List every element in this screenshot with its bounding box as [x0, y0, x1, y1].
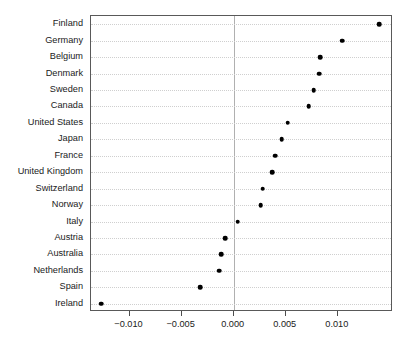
x-tick-mark — [337, 311, 338, 316]
category-label: Spain — [60, 281, 84, 291]
category-label: Ireland — [55, 298, 83, 308]
data-point — [261, 186, 266, 191]
data-point — [312, 88, 317, 93]
category-label: France — [54, 150, 83, 160]
category-label: Switzerland — [36, 183, 84, 193]
x-tick-mark — [285, 311, 286, 316]
x-tick-mark — [181, 311, 182, 316]
x-tick-mark — [233, 311, 234, 316]
data-point — [270, 170, 275, 175]
gridline — [91, 205, 391, 206]
category-label: Finland — [53, 18, 83, 28]
data-point — [377, 22, 382, 27]
x-axis: −0.010−0.0050.0000.0050.010 — [90, 311, 392, 352]
category-label: Netherlands — [33, 265, 83, 275]
data-point — [318, 55, 323, 60]
data-point — [99, 301, 104, 306]
gridline — [91, 106, 391, 107]
x-tick-mark — [129, 311, 130, 316]
dot-plot-figure: FinlandGermanyBelgiumDenmarkSwedenCanada… — [0, 0, 403, 352]
gridline — [91, 24, 391, 25]
category-label: Canada — [51, 100, 83, 110]
x-tick-label: −0.005 — [166, 319, 194, 330]
data-point — [198, 285, 203, 290]
data-point — [236, 219, 241, 224]
gridline — [91, 90, 391, 91]
category-axis: FinlandGermanyBelgiumDenmarkSwedenCanada… — [0, 0, 86, 352]
x-tick-label: −0.010 — [114, 319, 142, 330]
data-point — [306, 104, 311, 109]
gridline — [91, 74, 391, 75]
category-label: Germany — [45, 35, 83, 45]
data-point — [223, 236, 228, 241]
gridline — [91, 189, 391, 190]
gridline — [91, 41, 391, 42]
category-label: Norway — [52, 199, 83, 209]
gridline — [91, 123, 391, 124]
gridline — [91, 238, 391, 239]
x-tick-label: 0.005 — [273, 319, 296, 330]
gridline — [91, 254, 391, 255]
x-tick-label: 0.010 — [325, 319, 348, 330]
data-point — [317, 71, 322, 76]
zero-reference-line — [234, 16, 235, 310]
gridline — [91, 222, 391, 223]
data-point — [217, 269, 222, 274]
category-label: Japan — [58, 133, 83, 143]
data-point — [340, 38, 345, 43]
gridline — [91, 287, 391, 288]
category-label: Austria — [54, 232, 83, 242]
data-point — [286, 121, 291, 126]
category-label: Italy — [66, 216, 83, 226]
data-point — [279, 137, 284, 142]
category-label: Belgium — [50, 51, 83, 61]
category-label: United States — [28, 117, 83, 127]
category-label: Denmark — [46, 68, 83, 78]
x-tick-label: 0.000 — [221, 319, 244, 330]
gridline — [91, 156, 391, 157]
category-label: United Kingdom — [18, 166, 83, 176]
category-label: Sweden — [50, 84, 83, 94]
data-point — [219, 252, 224, 257]
gridline — [91, 139, 391, 140]
gridline — [91, 304, 391, 305]
gridline — [91, 57, 391, 58]
plot-panel — [90, 15, 392, 311]
category-label: Australia — [47, 248, 83, 258]
gridline — [91, 172, 391, 173]
gridline — [91, 271, 391, 272]
data-point — [258, 203, 263, 208]
data-point — [273, 153, 278, 158]
